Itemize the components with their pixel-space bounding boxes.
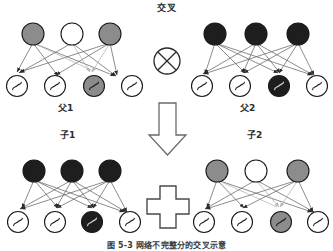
output-node xyxy=(194,212,215,233)
output-node xyxy=(122,76,143,97)
child1-output-nodes xyxy=(8,212,141,233)
output-node xyxy=(308,212,329,233)
output-node xyxy=(45,212,66,233)
network-child1 xyxy=(8,160,141,233)
crossover-figure: 交叉 xyxy=(0,0,333,251)
child2-hidden-nodes xyxy=(206,160,309,182)
network-parent1 xyxy=(7,23,143,97)
network-diagram-canvas xyxy=(0,0,333,251)
hidden-node xyxy=(204,23,226,45)
hidden-node xyxy=(287,23,309,45)
parent2-hidden-nodes xyxy=(204,23,309,45)
child1-edges xyxy=(20,180,127,212)
figure-caption: 图 5-3 网络不完整分的交叉示意 xyxy=(0,239,333,251)
network-parent2 xyxy=(192,23,328,97)
output-node xyxy=(45,76,66,97)
network-label-child1: 子1 xyxy=(60,131,75,140)
hidden-node xyxy=(245,160,267,182)
network-label-child2: 子2 xyxy=(247,131,262,140)
parent2-output-nodes xyxy=(192,76,328,97)
output-node xyxy=(192,76,213,97)
network-label-parent1: 父1 xyxy=(58,104,73,113)
hidden-node xyxy=(287,160,309,182)
output-node xyxy=(7,76,28,97)
output-node xyxy=(82,212,103,233)
crossover-operator-icon xyxy=(154,48,180,74)
network-child2 xyxy=(194,160,329,233)
network-label-parent2: 父2 xyxy=(240,104,255,113)
output-node xyxy=(307,76,328,97)
output-node xyxy=(230,76,251,97)
hidden-node xyxy=(206,160,228,182)
down-arrow-icon xyxy=(149,103,186,155)
hidden-node xyxy=(99,23,121,45)
output-node xyxy=(84,76,105,97)
child2-edges xyxy=(205,180,314,212)
parent2-edges xyxy=(203,43,314,75)
output-node xyxy=(8,212,29,233)
plus-operator-icon xyxy=(147,186,189,228)
hidden-node xyxy=(245,23,267,45)
output-node xyxy=(271,212,292,233)
output-node xyxy=(269,76,290,97)
parent1-edges xyxy=(17,43,117,76)
hidden-node xyxy=(61,23,83,45)
parent1-hidden-nodes xyxy=(22,23,121,45)
hidden-node xyxy=(99,160,121,182)
hidden-node xyxy=(61,160,83,182)
hidden-node xyxy=(23,160,45,182)
hidden-node xyxy=(22,23,44,45)
output-node xyxy=(120,212,141,233)
child2-output-nodes xyxy=(194,212,329,233)
child1-hidden-nodes xyxy=(23,160,121,182)
output-node xyxy=(232,212,253,233)
parent1-output-nodes xyxy=(7,76,143,97)
